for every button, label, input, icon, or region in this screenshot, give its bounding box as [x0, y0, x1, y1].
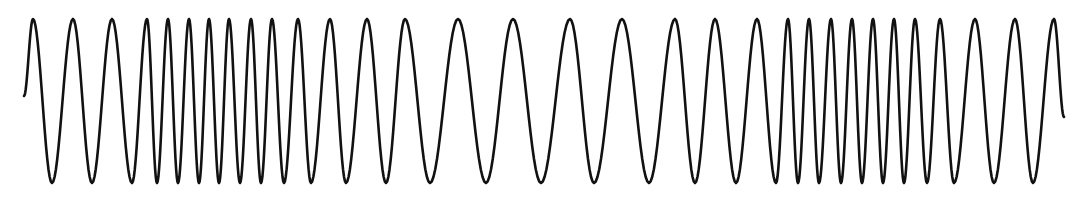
waveform-line	[24, 19, 1064, 183]
waveform-chart	[0, 0, 1084, 197]
